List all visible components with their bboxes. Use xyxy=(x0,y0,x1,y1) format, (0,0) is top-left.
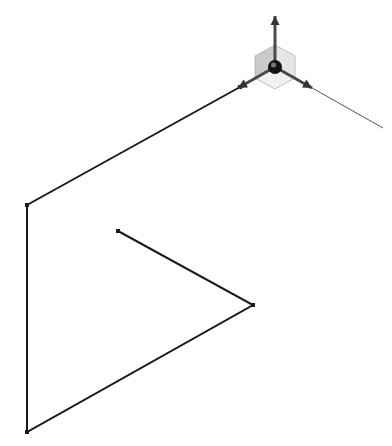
triad-origin-highlight xyxy=(271,63,276,68)
coordinate-triad-icon[interactable] xyxy=(238,16,312,89)
sketch-vertex-v3[interactable] xyxy=(25,430,29,434)
sketch-polyline[interactable] xyxy=(27,87,253,432)
cad-viewport[interactable] xyxy=(0,0,392,446)
sketch-vertex-v2[interactable] xyxy=(25,203,29,207)
y-axis-arrowhead-icon xyxy=(271,16,280,25)
sketch-vertices xyxy=(25,85,255,434)
sketch-vertex-v5[interactable] xyxy=(116,229,120,233)
sketch-vertex-v4[interactable] xyxy=(251,303,255,307)
